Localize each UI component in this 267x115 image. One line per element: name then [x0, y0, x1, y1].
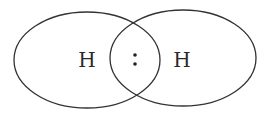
left-hydrogen-label: H [78, 48, 95, 72]
right-hydrogen-label: H [173, 48, 190, 72]
h2-bond-diagram: H H [0, 0, 267, 115]
shared-electron-pair [133, 53, 137, 66]
electron-dot-top [133, 53, 137, 57]
electron-dot-bottom [133, 62, 137, 66]
